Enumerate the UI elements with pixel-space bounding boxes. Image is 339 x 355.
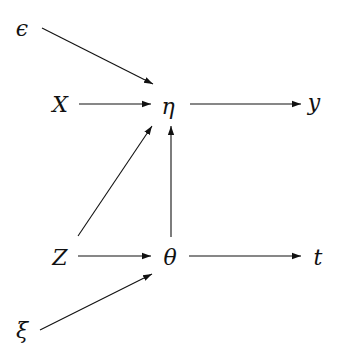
edge-z-eta xyxy=(78,126,152,236)
node-theta: θ xyxy=(163,245,176,270)
node-xi: ξ xyxy=(16,318,30,343)
node-z: Z xyxy=(51,245,68,270)
edge-epsilon-eta xyxy=(42,28,153,84)
node-t: t xyxy=(314,245,323,270)
node-y: y xyxy=(307,90,321,115)
node-eta: η xyxy=(161,94,174,119)
causal-diagram: ϵ X η y Z θ t ξ xyxy=(0,0,339,355)
node-x: X xyxy=(50,92,69,117)
node-epsilon: ϵ xyxy=(16,16,28,41)
edge-xi-theta xyxy=(40,274,152,330)
